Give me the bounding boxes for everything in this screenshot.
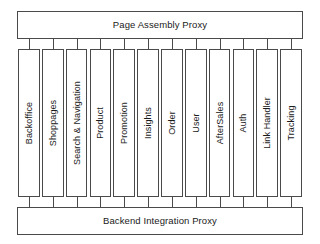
service-box-label: Product [96, 107, 105, 139]
bottom-connector-line [243, 197, 244, 207]
service-box-auth: Auth [233, 49, 255, 197]
bottom-connector-line [291, 197, 292, 207]
service-box-aftersales: AfterSales [209, 49, 231, 197]
service-box-label: Insights [144, 107, 153, 139]
bottom-connector-line [220, 197, 221, 207]
service-box-user: User [185, 49, 207, 197]
service-box-label: Shoppages [48, 100, 57, 146]
backend-integration-proxy-box: Backend Integration Proxy [17, 207, 303, 235]
top-connector-line [100, 39, 101, 49]
top-connector-line [220, 39, 221, 49]
service-columns: BackofficeShoppagesSearch & NavigationPr… [17, 49, 303, 197]
service-box-backoffice: Backoffice [18, 49, 40, 197]
service-box-label: Link Handler [263, 97, 272, 149]
service-box-tracking: Tracking [280, 49, 302, 197]
top-connector-line [53, 39, 54, 49]
service-box-label: Promotion [120, 102, 129, 144]
service-box-label: Order [167, 111, 176, 135]
page-assembly-proxy-box: Page Assembly Proxy [17, 11, 303, 39]
service-box-promotion: Promotion [113, 49, 135, 197]
service-box-label: Tracking [287, 106, 296, 141]
bottom-connector-line [53, 197, 54, 207]
service-box-order: Order [161, 49, 183, 197]
bottom-connector-group [17, 197, 303, 207]
top-connector-line [172, 39, 173, 49]
service-box-label: Search & Navigation [72, 81, 81, 165]
bottom-connector-line [29, 197, 30, 207]
top-connector-line [291, 39, 292, 49]
bottom-connector-line [124, 197, 125, 207]
top-connector-line [196, 39, 197, 49]
top-connector-line [148, 39, 149, 49]
top-connector-line [267, 39, 268, 49]
backend-integration-proxy-label: Backend Integration Proxy [103, 216, 217, 226]
service-box-label: Auth [239, 114, 248, 133]
bottom-connector-line [196, 197, 197, 207]
service-box-link-handler: Link Handler [256, 49, 278, 197]
top-connector-group [17, 39, 303, 49]
service-box-search-navigation: Search & Navigation [66, 49, 88, 197]
service-box-product: Product [90, 49, 112, 197]
page-assembly-proxy-label: Page Assembly Proxy [113, 20, 207, 30]
service-box-label: Backoffice [24, 102, 33, 144]
top-connector-line [29, 39, 30, 49]
bottom-connector-line [267, 197, 268, 207]
service-box-label: AfterSales [215, 102, 224, 145]
bottom-connector-line [77, 197, 78, 207]
service-box-insights: Insights [137, 49, 159, 197]
bottom-connector-line [148, 197, 149, 207]
service-box-label: User [191, 113, 200, 132]
top-connector-line [77, 39, 78, 49]
bottom-connector-line [100, 197, 101, 207]
top-connector-line [124, 39, 125, 49]
architecture-diagram: Page Assembly Proxy BackofficeShoppagesS… [0, 0, 320, 244]
service-box-shoppages: Shoppages [42, 49, 64, 197]
top-connector-line [243, 39, 244, 49]
bottom-connector-line [172, 197, 173, 207]
